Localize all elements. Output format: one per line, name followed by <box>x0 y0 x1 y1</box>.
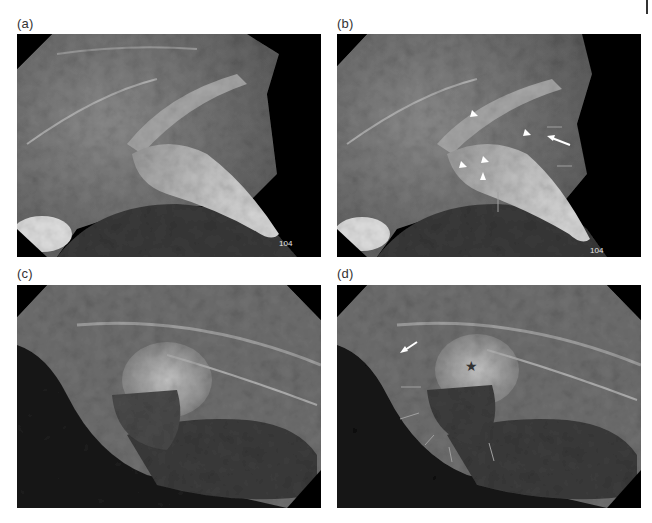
radiograph-panel-b: 104 <box>337 34 641 257</box>
xray-image-c <box>17 285 321 508</box>
panel-label-b: (b) <box>337 16 354 31</box>
tooth-number-label-a: 104 <box>279 239 293 248</box>
radiograph-panel-a: 104 <box>17 34 321 257</box>
xray-image-b: 104 <box>337 34 641 257</box>
panel-label-d: (d) <box>337 266 354 281</box>
xray-image-a: 104 <box>17 34 321 257</box>
radiograph-panel-c <box>17 285 321 508</box>
radiograph-panel-d: ★ <box>337 285 641 508</box>
tooth-number-label-b: 104 <box>590 246 604 255</box>
star-icon-d: ★ <box>465 358 478 374</box>
xray-image-d: ★ <box>337 285 641 508</box>
panel-label-a: (a) <box>17 16 34 31</box>
page-edge-mark <box>646 0 648 14</box>
panel-label-c: (c) <box>17 266 33 281</box>
